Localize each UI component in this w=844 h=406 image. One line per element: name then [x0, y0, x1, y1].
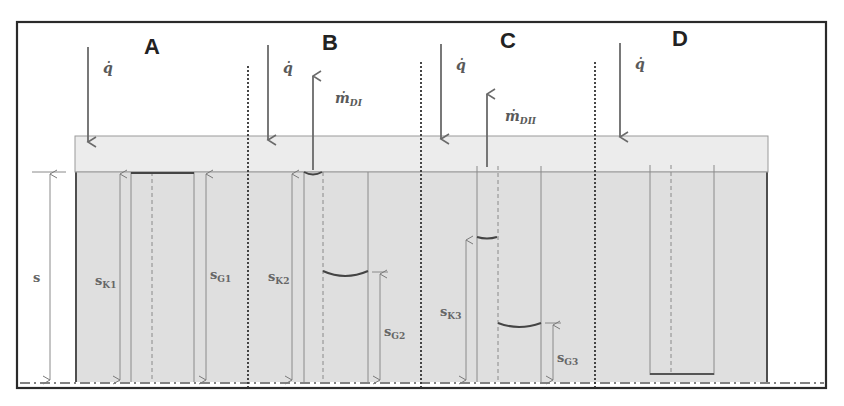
drying-stages-diagram: A q̇ s sK1 sG1 B q̇ ṁDI sK2 sG2 [0, 0, 844, 406]
panel-a-title: A [144, 34, 160, 59]
heat-flux-label-a: q̇ [103, 60, 113, 76]
dim-label-s: s [33, 270, 40, 285]
panel-d-title: D [672, 26, 688, 51]
heat-flux-label-b: q̇ [283, 60, 293, 76]
panel-b-title: B [322, 30, 338, 55]
heat-flux-label-c: q̇ [456, 57, 466, 73]
panel-c-title: C [500, 28, 516, 53]
heat-flux-label-d: q̇ [635, 56, 645, 72]
